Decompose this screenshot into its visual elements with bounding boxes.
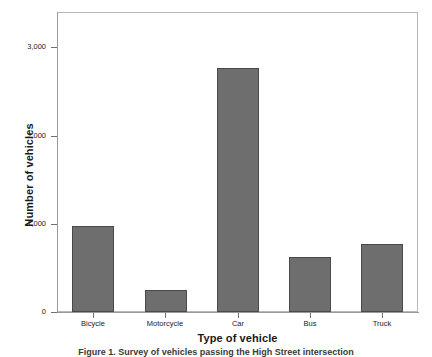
bar <box>289 257 331 312</box>
bar <box>361 244 403 312</box>
x-tick-mark <box>165 313 166 318</box>
x-tick-label: Truck <box>337 319 427 328</box>
x-axis-title: Type of vehicle <box>57 332 418 344</box>
y-tick-mark <box>51 47 57 48</box>
y-axis-title: Number of vehicles <box>23 85 35 265</box>
y-tick-mark <box>51 312 57 313</box>
x-tick-mark <box>310 313 311 318</box>
y-tick-mark <box>51 136 57 137</box>
y-tick-label: 1,000 <box>0 219 46 228</box>
bar <box>217 68 259 312</box>
figure-caption: Figure 1. Survey of vehicles passing the… <box>0 347 432 357</box>
y-tick-label: 3,000 <box>0 42 46 51</box>
y-axis-line <box>57 12 58 313</box>
bar <box>72 226 114 312</box>
y-tick-label: 0 <box>0 307 46 316</box>
bar <box>145 290 187 312</box>
y-tick-label: 2,000 <box>0 131 46 140</box>
y-tick-mark <box>51 224 57 225</box>
x-tick-mark <box>93 313 94 318</box>
x-tick-mark <box>238 313 239 318</box>
x-tick-mark <box>382 313 383 318</box>
